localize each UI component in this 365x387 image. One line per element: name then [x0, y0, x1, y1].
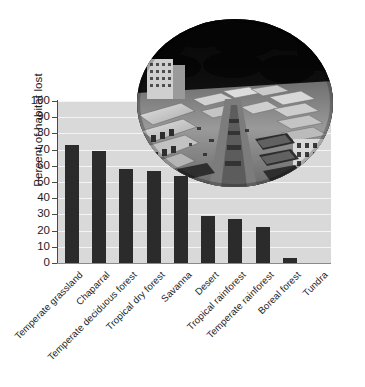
- bar-boreal-forest[interactable]: [283, 258, 297, 263]
- bar-temperate-grassland[interactable]: [65, 145, 79, 263]
- bar-temperate-deciduous-forest[interactable]: [119, 169, 133, 263]
- bar-temperate-rainforest[interactable]: [256, 227, 270, 263]
- y-tick-label-100: 100: [14, 95, 50, 107]
- y-tick-label-20: 20: [14, 225, 50, 237]
- y-tick-label-80: 80: [14, 128, 50, 140]
- bar-desert[interactable]: [201, 216, 215, 263]
- y-tick-label-0: 0: [14, 257, 50, 269]
- bar-chaparral[interactable]: [92, 151, 106, 263]
- habitat-loss-photo: [137, 19, 333, 187]
- y-tick-label-70: 70: [14, 144, 50, 156]
- bar-tropical-rainforest[interactable]: [228, 219, 242, 263]
- x-axis-line: [57, 263, 331, 264]
- y-tick-label-40: 40: [14, 192, 50, 204]
- y-axis-tick-labels: 1009080706050403020100: [14, 101, 50, 263]
- y-tick-label-50: 50: [14, 176, 50, 188]
- bar-savanna[interactable]: [174, 176, 188, 263]
- y-tick-label-60: 60: [14, 160, 50, 172]
- bar-tropical-dry-forest[interactable]: [147, 171, 161, 263]
- y-tick-label-90: 90: [14, 111, 50, 123]
- y-tick-label-10: 10: [14, 241, 50, 253]
- y-tick-label-30: 30: [14, 209, 50, 221]
- habitat-loss-bar-chart-figure: Percent of habitat lost 1009080706050403…: [0, 0, 365, 387]
- x-tick-label-tundra: Tundra: [301, 269, 330, 298]
